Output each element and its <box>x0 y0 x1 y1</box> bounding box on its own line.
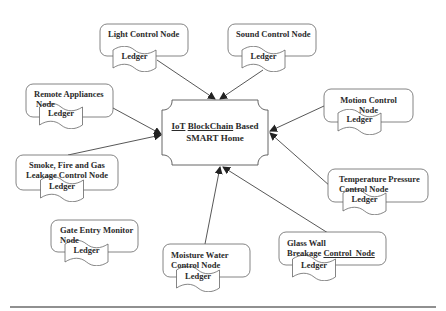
node-smoke-line1: Smoke, Fire and Gas <box>29 160 105 170</box>
edge-smoke <box>68 135 161 155</box>
node-remote-line1: Remote Appliances <box>34 89 104 99</box>
node-glass-line2-a: Breakage <box>287 248 321 258</box>
node-label-motion: Motion Control Node <box>324 95 413 115</box>
node-label-light: Light Control Node <box>108 29 188 39</box>
node-label-moisture: Moisture Water Control Node <box>171 250 251 270</box>
node-light-line1: Light Control Node <box>108 29 179 39</box>
node-motion-line1: Motion Control <box>340 95 397 105</box>
center-label-blockchain: BlockChain <box>188 121 234 131</box>
node-label-smoke: Smoke, Fire and Gas Leakage Control Node <box>16 160 118 180</box>
edge-glass <box>223 167 328 233</box>
edge-remote <box>113 108 161 134</box>
center-label-iot: IoT <box>172 121 186 131</box>
node-label-remote: Remote Appliances Node <box>34 89 114 109</box>
ledger-label-temperature: Ledger <box>342 194 387 204</box>
node-label-sound: Sound Control Node <box>236 29 316 39</box>
edge-light <box>157 60 215 99</box>
node-smoke-line2: Leakage Control Node <box>26 170 108 180</box>
node-sound-line1: Sound Control Node <box>236 29 310 39</box>
ledger-label-light: Ledger <box>112 51 157 61</box>
node-temperature-line1: Temperature Pressure <box>339 174 420 184</box>
ledger-label-smoke: Ledger <box>40 181 84 191</box>
edge-motion <box>270 106 324 131</box>
node-label-temperature: Temperature Pressure Control Node <box>339 174 429 194</box>
ledger-label-motion: Ledger <box>337 114 382 124</box>
node-gate-line2: Node <box>60 235 79 245</box>
ledger-label-remote: Ledger <box>39 108 83 118</box>
edge-temperature <box>270 133 330 186</box>
node-label-gate: Gate Entry Monitor Node <box>60 225 140 245</box>
ledger-label-glass: Ledger <box>292 260 336 270</box>
node-label-glass: Glass Wall Breakage Control Node <box>287 238 387 258</box>
center-label-line2: SMART Home <box>186 133 243 143</box>
center-hub-label: IoT BlockChain Based SMART Home <box>162 120 268 144</box>
center-label-based: Based <box>235 121 258 131</box>
ledger-label-gate: Ledger <box>64 245 109 255</box>
node-glass-line1: Glass Wall <box>287 238 326 248</box>
node-gate-line1: Gate Entry Monitor <box>60 225 133 235</box>
node-moisture-line2: Control Node <box>171 260 220 270</box>
node-moisture-line1: Moisture Water <box>171 250 229 260</box>
ledger-label-moisture: Ledger <box>176 271 220 281</box>
edge-sound <box>220 70 263 99</box>
node-temperature-line2: Control Node <box>339 184 388 194</box>
ledger-label-sound: Ledger <box>241 51 286 61</box>
edge-moisture <box>205 167 220 244</box>
node-glass-line2-b: Control Node <box>323 248 374 258</box>
